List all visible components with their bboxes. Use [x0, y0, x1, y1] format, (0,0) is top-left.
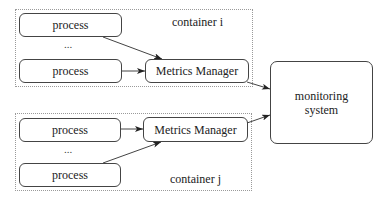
process-label: process: [53, 18, 89, 32]
process-label: process: [53, 64, 89, 78]
process-label: process: [52, 168, 88, 182]
container-j-ellipsis: ...: [64, 143, 72, 155]
container-i-process-1: process: [19, 13, 122, 37]
metrics-manager-label: Metrics Manager: [156, 64, 238, 78]
container-i-metrics-manager: Metrics Manager: [145, 59, 249, 83]
container-i-label: container i: [172, 15, 223, 30]
container-i-ellipsis: ...: [64, 38, 72, 50]
container-i-process-2: process: [19, 59, 122, 83]
process-label: process: [52, 123, 88, 137]
container-j-process-2: process: [19, 163, 121, 187]
container-j-metrics-manager: Metrics Manager: [143, 117, 248, 142]
container-j-label: container j: [170, 172, 221, 187]
container-j-process-1: process: [19, 118, 121, 142]
monitoring-system-box: monitoring system: [270, 61, 373, 144]
metrics-manager-label: Metrics Manager: [154, 123, 236, 137]
monitoring-system-label: monitoring system: [295, 89, 348, 117]
